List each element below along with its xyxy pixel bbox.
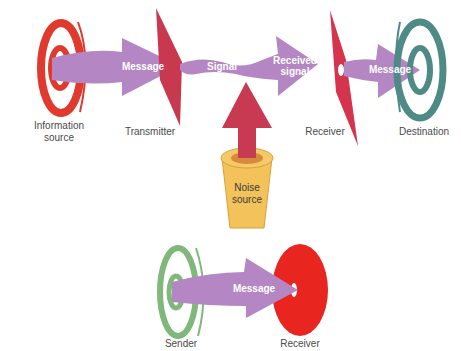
bottom-message-label: Message [228,283,280,294]
message-1-label: Message [118,61,168,72]
sender-label: Sender [156,338,206,350]
destination-label: Destination [392,126,456,138]
received-signal-label: Received signal [267,55,323,77]
information-source-label: Information source [24,120,94,144]
signal-label: Signal [202,61,242,72]
message-2-label: Message [364,64,416,75]
receiver-hole-icon [338,64,344,76]
bottom-receiver-label: Receiver [272,338,328,350]
noise-arrow [222,82,272,158]
receiver-label: Receiver [298,126,352,138]
noise-source-label: Noise source [222,182,272,206]
transmitter-label: Transmitter [118,126,182,138]
